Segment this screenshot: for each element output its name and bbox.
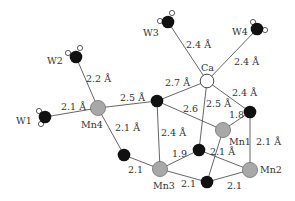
- oxygen-atom: [251, 23, 264, 36]
- label-w1: W1: [16, 115, 32, 126]
- bond-length-w3-ca: 2.4 Å: [186, 39, 211, 50]
- label-ca: Ca: [201, 62, 214, 73]
- oxygen-atom-o5: [201, 176, 214, 189]
- bond-length-ca-o3: 2.5 Å: [206, 98, 231, 109]
- label-w3: W3: [143, 27, 159, 38]
- bond-length-o5-mn2: 2.1: [227, 180, 242, 191]
- label-mn3: Mn3: [153, 180, 175, 191]
- label-mn2: Mn2: [260, 164, 282, 175]
- bond-length-w2-mn4: 2.2 Å: [86, 73, 111, 84]
- oxygen-atom: [39, 111, 52, 124]
- bond-length-o1-ca: 2.7 Å: [165, 77, 190, 88]
- bond-length-o4-mn2: 2.1 Å: [256, 136, 281, 147]
- calcium-atom: [200, 74, 214, 88]
- oxygen-atom-o1: [151, 95, 164, 108]
- bond-length-ca-o4: 2.4 Å: [232, 87, 257, 98]
- oxygen-atom-o3: [193, 144, 206, 157]
- bond-length-o1-mn3: 2.4 Å: [161, 127, 186, 138]
- label-mn4: Mn4: [81, 119, 103, 130]
- oxygen-atom-o2: [118, 149, 131, 162]
- bond-length-mn1-o5: 2.1 Å: [210, 146, 235, 157]
- hydrogen-atom: [169, 10, 174, 15]
- oxygen-atom: [70, 51, 83, 64]
- hydrogen-atom: [77, 45, 82, 50]
- water-w3: [157, 10, 174, 28]
- bond-o1-mn3: [157, 101, 160, 169]
- bond-length-mn4-o1: 2.5 Å: [120, 92, 145, 103]
- water-w4: [250, 19, 267, 35]
- bond-length-mn3-o5: 2.1: [181, 178, 196, 189]
- bond-ca-o3: [199, 81, 207, 150]
- hydrogen-atom: [65, 50, 70, 55]
- oxygen-atom: [162, 16, 175, 29]
- bond-length-mn3-o3: 1.9: [172, 148, 187, 159]
- manganese-atom-mn2: [242, 162, 257, 177]
- oxygen-atom-o4: [244, 106, 257, 119]
- mn4cao5-cluster-diagram: W1 W2 W3 W4 Ca Mn1 Mn2 Mn3 Mn4 2.1 Å 2.2…: [0, 0, 295, 201]
- bond-length-mn4-o2: 2.1 Å: [115, 122, 140, 133]
- bond-length-o4-mn1: 1.8: [229, 109, 244, 120]
- water-w2: [65, 45, 82, 63]
- manganese-atom-mn4: [90, 100, 105, 115]
- bond-length-w1-mn4: 2.1 Å: [61, 101, 86, 112]
- bond-length-w4-ca: 2.4 Å: [234, 56, 259, 67]
- label-w4: W4: [232, 26, 248, 37]
- water-w1: [36, 108, 51, 126]
- bond-length-o1-mn1: 2.6: [183, 103, 198, 114]
- manganese-atom-mn3: [152, 161, 167, 176]
- bond-length-o2-mn3: 2.1: [128, 164, 143, 175]
- label-w2: W2: [47, 55, 63, 66]
